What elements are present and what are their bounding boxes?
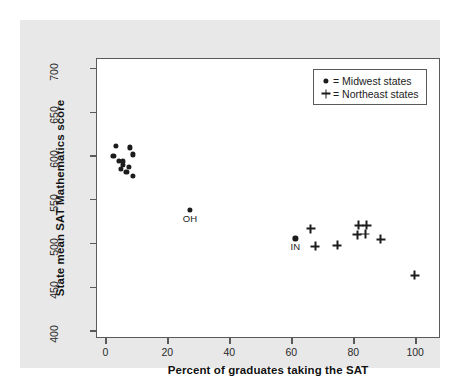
y-axis-tick-label: 650 <box>20 105 88 119</box>
data-point-label: OH <box>183 213 198 224</box>
data-point <box>118 167 123 172</box>
x-axis-tick <box>291 338 292 344</box>
x-axis-tick <box>415 338 416 344</box>
y-axis-tick-label: 400 <box>20 324 88 338</box>
legend-label-midwest: = Midwest states <box>333 75 412 87</box>
data-point <box>127 164 132 169</box>
x-axis-tick-label: 20 <box>161 346 173 358</box>
x-axis-tick-label: 100 <box>406 346 424 358</box>
y-axis-tick-label: 600 <box>20 149 88 163</box>
x-axis-tick-label: 60 <box>285 346 297 358</box>
data-point <box>361 230 370 239</box>
x-axis-tick <box>353 338 354 344</box>
y-axis-tick-label: 450 <box>20 280 88 294</box>
x-axis-tick <box>105 338 106 344</box>
data-point <box>113 143 118 148</box>
legend-item-northeast: = Northeast states <box>320 87 419 100</box>
data-point <box>376 235 385 244</box>
data-point <box>130 152 135 157</box>
data-point <box>130 174 135 179</box>
data-point <box>124 169 129 174</box>
data-point <box>333 241 342 250</box>
legend-label-northeast: = Northeast states <box>333 88 419 100</box>
data-point <box>111 154 116 159</box>
data-point <box>362 221 371 230</box>
legend-item-midwest: = Midwest states <box>320 74 419 87</box>
legend-dot-icon <box>320 75 332 87</box>
data-point <box>293 236 298 241</box>
data-point <box>311 242 320 251</box>
data-point <box>187 207 192 212</box>
x-axis-tick-label: 80 <box>347 346 359 358</box>
x-axis-tick <box>229 338 230 344</box>
legend-plus-icon <box>320 88 332 100</box>
data-point-label: IN <box>290 241 300 252</box>
figure-panel: State mean SAT Mathematics score 4004505… <box>20 20 440 368</box>
plot-frame: OHIN = Midwest states = Northeast states <box>96 58 440 338</box>
x-axis-tick <box>167 338 168 344</box>
x-axis-title: Percent of graduates taking the SAT <box>96 364 440 376</box>
y-axis-tick-label: 700 <box>20 62 88 76</box>
y-axis-tick-label: 550 <box>20 193 88 207</box>
data-point <box>306 224 315 233</box>
data-point <box>127 145 132 150</box>
data-point <box>410 271 419 280</box>
legend: = Midwest states = Northeast states <box>313 69 427 105</box>
chart-screenshot: State mean SAT Mathematics score 4004505… <box>0 0 456 379</box>
x-axis-tick-label: 0 <box>102 346 108 358</box>
y-axis-tick-label: 500 <box>20 237 88 251</box>
x-axis-tick-label: 40 <box>223 346 235 358</box>
